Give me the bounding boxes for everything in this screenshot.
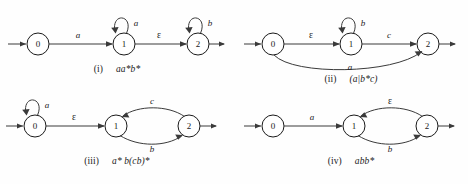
state-0-self-loop-head: [22, 109, 29, 116]
state-2-self-loop-label: b: [208, 18, 213, 28]
edge-0-1-head: [333, 41, 340, 47]
caption-iv-expression: abb*: [355, 156, 374, 166]
state-1-self-loop-head: [338, 27, 345, 34]
edge-0-2-label: a: [348, 62, 353, 72]
automaton-diagram-i: 0 a 1 a ε 2 b: [0, 0, 234, 92]
start-arrow-head: [17, 123, 23, 128]
caption-i-number: (i): [94, 64, 103, 74]
edge-0-1-label: ε: [72, 112, 76, 122]
start-arrow-head: [255, 41, 261, 46]
state-0-label: 0: [271, 39, 276, 49]
edge-1-2-label: b: [150, 144, 155, 154]
edge-0-1-label: ε: [309, 30, 313, 40]
edge-0-1-label: a: [76, 30, 81, 40]
caption-iii-number: (iii): [84, 156, 99, 166]
figure-sheet: 0 a 1 a ε 2 b: [0, 0, 468, 184]
edge-2-1-arc: [361, 108, 423, 117]
state-1-self-loop-head: [111, 27, 118, 34]
state-0-self-loop-label: a: [45, 100, 50, 110]
exit-arrow-head: [211, 123, 217, 128]
caption-i: (i)aa*b*: [0, 64, 234, 74]
caption-i-expression: aa*b*: [116, 64, 140, 74]
state-0-label: 0: [36, 39, 41, 49]
state-1-self-loop-label: b: [361, 18, 366, 28]
edge-0-1-head: [106, 41, 113, 47]
edge-1-2-head: [410, 41, 417, 47]
state-2-label: 2: [425, 121, 430, 131]
caption-ii: (ii)(a|b*c): [234, 74, 468, 84]
edge-1-2-arc: [120, 136, 182, 145]
edge-2-1-label: ε: [388, 96, 392, 106]
edge-0-1-head: [336, 123, 343, 129]
exit-arrow-head: [219, 41, 225, 46]
caption-iii: (iii)a* b(cb)*: [0, 156, 234, 166]
diagram-ii-canvas: 0 ε 1 b c 2 a: [234, 0, 468, 72]
state-2-label: 2: [426, 39, 431, 49]
caption-ii-number: (ii): [324, 74, 336, 84]
caption-iv: (iv)abb*: [234, 156, 468, 166]
edge-0-1-label: a: [310, 112, 315, 122]
start-arrow-head: [20, 41, 26, 46]
automaton-diagram-ii: 0 ε 1 b c 2 a: [234, 0, 468, 92]
diagram-i-canvas: 0 a 1 a ε 2 b: [0, 0, 234, 72]
diagram-iii-canvas: 0 a ε 1 2 b c: [0, 92, 234, 164]
edge-1-2-arc: [358, 136, 420, 145]
state-1-label: 1: [122, 39, 127, 49]
edge-1-2-label: b: [388, 144, 393, 154]
edge-1-2-head: [180, 41, 187, 47]
edge-1-2-label: c: [387, 30, 391, 40]
start-arrow-head: [255, 123, 261, 128]
state-0-label: 0: [271, 121, 276, 131]
caption-iv-number: (iv): [328, 156, 342, 166]
caption-iii-expression: a* b(cb)*: [112, 156, 150, 166]
state-2-self-loop-head: [185, 27, 192, 34]
state-1-label: 1: [114, 121, 119, 131]
edge-1-2-label: ε: [157, 30, 161, 40]
caption-ii-expression: (a|b*c): [349, 74, 377, 84]
diagram-iv-canvas: 0 a 1 2 b ε: [234, 92, 468, 164]
state-1-self-loop-label: a: [134, 18, 139, 28]
state-2-label: 2: [187, 121, 192, 131]
edge-2-1-label: c: [150, 96, 154, 106]
edge-2-1-arc: [123, 108, 185, 117]
exit-arrow-head: [450, 41, 456, 46]
state-0-label: 0: [33, 121, 38, 131]
edge-0-1-head: [98, 123, 105, 129]
automaton-diagram-iv: 0 a 1 2 b ε (iv)abb*: [234, 92, 468, 184]
state-1-label: 1: [352, 121, 357, 131]
exit-arrow-head: [449, 123, 455, 128]
automaton-diagram-iii: 0 a ε 1 2 b c: [0, 92, 234, 184]
state-1-label: 1: [349, 39, 354, 49]
state-2-label: 2: [196, 39, 201, 49]
